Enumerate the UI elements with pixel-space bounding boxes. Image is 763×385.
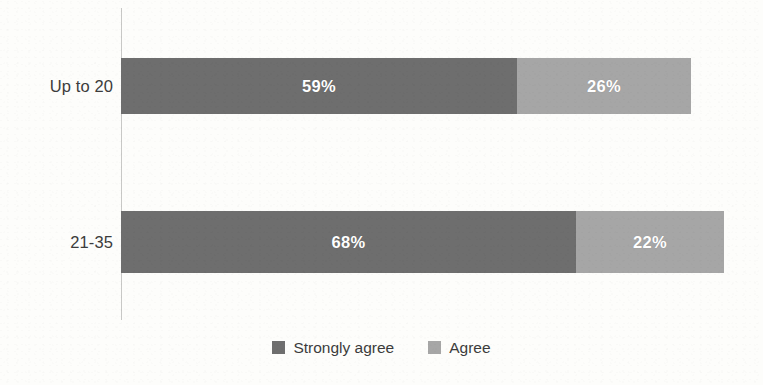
legend-swatch-dark-icon: [272, 341, 285, 354]
stacked-bar-chart: Up to 20 59% 26% 21-35 68% 22% Strongly …: [0, 0, 763, 385]
bar-value-label: 26%: [587, 78, 621, 95]
chart-legend: Strongly agree Agree: [0, 340, 763, 356]
bar-row-up-to-20: 59% 26%: [121, 58, 691, 114]
bar-segment-agree-up-to-20: 26%: [517, 58, 691, 114]
bar-segment-strongly-agree-21-35: 68%: [121, 211, 576, 273]
legend-label-agree: Agree: [449, 340, 490, 356]
category-label-21-35: 21-35: [0, 234, 113, 251]
bar-segment-agree-21-35: 22%: [576, 211, 724, 273]
legend-item-agree: Agree: [428, 340, 490, 356]
category-axis-line: [121, 8, 122, 320]
legend-label-strongly-agree: Strongly agree: [293, 340, 394, 356]
bar-segment-strongly-agree-up-to-20: 59%: [121, 58, 517, 114]
legend-item-strongly-agree: Strongly agree: [272, 340, 394, 356]
bar-value-label: 68%: [332, 234, 366, 251]
legend-swatch-light-icon: [428, 341, 441, 354]
bar-row-21-35: 68% 22%: [121, 211, 724, 273]
bar-value-label: 59%: [302, 78, 336, 95]
category-label-up-to-20: Up to 20: [0, 78, 113, 95]
bar-value-label: 22%: [633, 234, 667, 251]
